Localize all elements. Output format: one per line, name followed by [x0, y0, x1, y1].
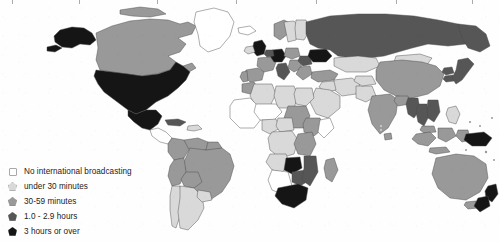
legend-item-no-broadcasting: No international broadcasting	[4, 164, 154, 179]
region-chad-car	[276, 118, 294, 132]
legend-label: No international broadcasting	[24, 167, 132, 176]
legend-label: 1.0 - 2.9 hours	[24, 212, 77, 221]
island-dot	[465, 149, 467, 151]
legend-item-3-hours-or-over: 3 hours or over	[4, 224, 154, 239]
legend-swatch-pentagon-icon	[8, 182, 17, 191]
island-dot	[479, 125, 481, 127]
island-dot	[380, 129, 382, 131]
legend-swatch-pentagon-icon	[8, 227, 17, 236]
island-dot	[235, 15, 237, 17]
legend-item-1-to-2-9-hours: 1.0 - 2.9 hours	[4, 209, 154, 224]
map-legend: No international broadcasting under 30 m…	[4, 164, 154, 239]
island-dot	[380, 125, 382, 127]
legend-swatch-pentagon-icon	[8, 212, 17, 221]
region-malaysia	[420, 126, 436, 133]
island-dot	[469, 121, 471, 123]
legend-item-30-59-minutes: 30-59 minutes	[4, 194, 154, 209]
island-dot	[491, 117, 493, 119]
world-map-figure: .L{stroke:#4a4a4a;stroke-width:.45;strok…	[0, 0, 499, 242]
legend-label: 30-59 minutes	[24, 197, 76, 206]
island-dot	[485, 151, 487, 153]
legend-swatch-pentagon-icon	[9, 168, 17, 176]
legend-item-under-30-minutes: under 30 minutes	[4, 179, 154, 194]
region-sri-lanka	[384, 133, 392, 140]
legend-label: 3 hours or over	[24, 227, 80, 236]
legend-swatch-pentagon-icon	[8, 197, 17, 206]
island-dot	[493, 159, 495, 161]
legend-label: under 30 minutes	[24, 182, 88, 191]
